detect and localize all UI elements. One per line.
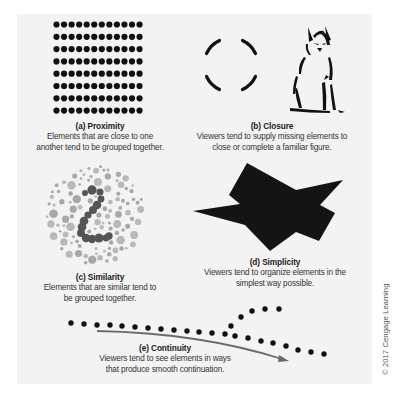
simplicity-caption: (d) Simplicity Viewers tend to organize … [195,257,355,289]
proximity-title: (a) Proximity [20,121,180,132]
similarity-description-line2: be grouped together. [20,294,180,305]
proximity-dot-grid [53,21,142,113]
continuity-description-line1: Viewers tend to see elements in ways [90,354,240,365]
closure-description-line1: Viewers tend to supply missing elements … [192,132,352,143]
simplicity-overlapping-shape [193,163,343,251]
similarity-dot-circle [46,165,144,265]
simplicity-title: (d) Simplicity [195,257,355,268]
simplicity-description-line1: Viewers tend to organize elements in the [195,268,355,279]
gestalt-illustrations [0,0,402,395]
similarity-title: (c) Similarity [20,272,180,283]
similarity-description-line1: Elements that are similar tend to [20,283,180,294]
simplicity-description-line2: simplest way possible. [195,279,355,290]
closure-description-line2: close or complete a familiar figure. [192,143,352,154]
copyright-notice: © 2017 Cengage Learning [381,284,390,376]
closure-cat-figure [290,26,345,113]
continuity-description-line2: that produce smooth continuation. [90,365,240,376]
closure-broken-circle [207,41,256,90]
closure-title: (b) Closure [192,121,352,132]
continuity-title: (e) Continuity [90,343,240,354]
proximity-caption: (a) Proximity Elements that are close to… [20,121,180,153]
closure-caption: (b) Closure Viewers tend to supply missi… [192,121,352,153]
proximity-description-line2: another tend to be grouped together. [20,143,180,154]
continuity-caption: (e) Continuity Viewers tend to see eleme… [90,343,240,375]
similarity-caption: (c) Similarity Elements that are similar… [20,272,180,304]
proximity-description-line1: Elements that are close to one [20,132,180,143]
